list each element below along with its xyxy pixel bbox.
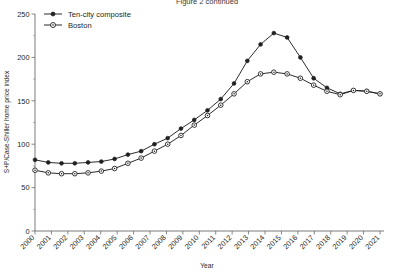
figure-title: Figure 2 continued [176, 0, 238, 6]
data-point [285, 36, 289, 40]
data-point-center [180, 135, 182, 137]
data-point [179, 127, 183, 131]
x-tick-label: 2014 [248, 233, 266, 251]
data-point-center [220, 104, 222, 106]
x-tick-label: 2001 [35, 233, 53, 251]
data-point-center [233, 93, 235, 95]
x-tick-label: 2017 [298, 233, 316, 251]
data-point-center [247, 81, 249, 83]
x-tick-label: 2009 [166, 233, 184, 251]
x-tick-label: 2018 [314, 233, 332, 251]
y-tick-label: 50 [21, 183, 29, 192]
data-point [259, 42, 263, 46]
data-point [272, 31, 276, 35]
x-tick-label: 2019 [331, 233, 349, 251]
x-tick-label: 2008 [150, 233, 168, 251]
data-point [298, 56, 302, 60]
data-point-center [34, 169, 36, 171]
series-line-ten-city-composite [35, 33, 380, 163]
legend-marker-center [52, 24, 54, 26]
y-tick-label: 250 [17, 10, 29, 19]
x-tick-label: 2006 [117, 233, 135, 251]
line-chart: Figure 2 continued Ten-city compositeBos… [0, 0, 414, 274]
data-point [86, 161, 90, 165]
data-point-center [260, 73, 262, 75]
data-point-center [154, 150, 156, 152]
data-point [312, 76, 316, 80]
data-point-center [87, 172, 89, 174]
data-point [245, 59, 249, 63]
x-tick-label: 2005 [101, 233, 119, 251]
data-point-center [114, 168, 116, 170]
y-tick-label: 100 [17, 140, 29, 149]
data-point [166, 136, 170, 140]
data-point-center [74, 173, 76, 175]
x-tick-label: 2010 [183, 233, 201, 251]
data-point [46, 161, 50, 165]
data-point-center [286, 73, 288, 75]
data-point-center [313, 84, 315, 86]
data-point-center [127, 163, 129, 165]
data-point [113, 157, 117, 161]
data-point-center [140, 157, 142, 159]
x-tick-label: 2002 [51, 233, 69, 251]
data-point [60, 161, 64, 165]
data-point-center [48, 172, 50, 174]
x-tick-label: 2013 [232, 233, 250, 251]
data-point [232, 82, 236, 86]
data-point [33, 158, 37, 162]
x-axis: 2000200120022003200420052006200720082009… [18, 231, 384, 251]
x-tick-label: 2021 [363, 233, 381, 251]
data-point-center [326, 91, 328, 93]
y-axis: 050100150200250 [17, 10, 35, 236]
data-point-center [300, 77, 302, 79]
x-tick-label: 2020 [347, 233, 365, 251]
data-point-center [366, 91, 368, 93]
data-point [153, 142, 157, 146]
y-axis-title: S+P/Case-Shiller home price index [3, 70, 11, 173]
data-point-center [353, 90, 355, 92]
data-point-center [273, 71, 275, 73]
x-tick-label: 2007 [133, 233, 151, 251]
legend-marker-filled-circle-icon [51, 12, 55, 16]
x-tick-label: 2000 [18, 233, 36, 251]
x-tick-label: 2004 [84, 233, 102, 251]
x-tick-label: 2003 [68, 233, 86, 251]
legend-label: Boston [68, 21, 92, 30]
y-tick-label: 200 [17, 53, 29, 62]
data-point-center [339, 94, 341, 96]
x-axis-title: Year [200, 262, 214, 269]
legend-label: Ten-city composite [68, 10, 131, 19]
x-tick-label: 2015 [265, 233, 283, 251]
x-tick-label: 2011 [200, 233, 218, 251]
data-point [126, 153, 130, 157]
chart-legend: Ten-city compositeBoston [44, 10, 131, 30]
data-point-center [61, 173, 63, 175]
data-point-center [207, 115, 209, 117]
x-tick-label: 2012 [216, 233, 234, 251]
data-point-center [193, 124, 195, 126]
data-point [192, 118, 196, 122]
data-point [99, 160, 103, 164]
data-point-center [167, 143, 169, 145]
figure-container: Figure 2 continued Ten-city compositeBos… [0, 0, 414, 274]
y-tick-label: 150 [17, 97, 29, 106]
data-point [139, 149, 143, 153]
x-tick-label: 2016 [281, 233, 299, 251]
data-point-center [379, 93, 381, 95]
data-point [206, 108, 210, 112]
data-point [73, 161, 77, 165]
series-layer [33, 31, 383, 176]
data-point [219, 97, 223, 101]
data-point-center [101, 170, 103, 172]
